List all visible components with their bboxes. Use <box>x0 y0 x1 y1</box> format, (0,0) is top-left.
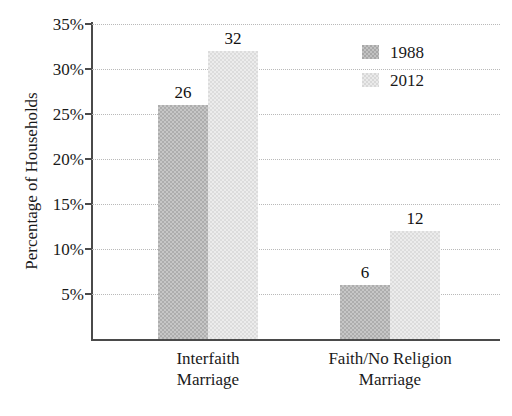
plot-area: 26 32 6 12 <box>92 24 500 339</box>
chart-legend: 1988 2012 <box>362 38 424 94</box>
bar-1988-faith-no-religion[interactable] <box>340 285 390 339</box>
x-category-label-interfaith: Interfaith Marriage <box>132 348 284 390</box>
y-tick-label: 10% <box>32 241 84 258</box>
legend-swatch-1988-icon <box>362 45 379 59</box>
y-axis-tick-labels: 35% 30% 25% 20% 15% 10% 5% <box>22 0 84 416</box>
x-axis-line <box>91 339 500 341</box>
y-tick-label: 5% <box>32 286 84 303</box>
legend-label-2012: 2012 <box>390 72 424 89</box>
bar-value-label: 12 <box>390 210 440 227</box>
y-tick-label: 25% <box>32 106 84 123</box>
bar-value-label: 6 <box>340 264 390 281</box>
gridline <box>92 204 500 205</box>
gridline <box>92 114 500 115</box>
legend-item-1988[interactable]: 1988 <box>362 38 424 66</box>
gridline <box>92 69 500 70</box>
bar-2012-interfaith[interactable] <box>208 51 258 339</box>
x-category-line: Interfaith <box>132 348 284 369</box>
y-tick-label: 20% <box>32 151 84 168</box>
gridline <box>92 24 500 25</box>
bar-1988-interfaith[interactable] <box>158 105 208 339</box>
cropped-chart-title <box>150 0 310 2</box>
bar-2012-faith-no-religion[interactable] <box>390 231 440 339</box>
y-tick-label: 15% <box>32 196 84 213</box>
y-tick-label: 35% <box>32 16 84 33</box>
legend-swatch-2012-icon <box>362 73 379 87</box>
y-tick-label: 30% <box>32 61 84 78</box>
x-category-line: Marriage <box>132 369 284 390</box>
legend-item-2012[interactable]: 2012 <box>362 66 424 94</box>
x-category-label-faith-no-religion: Faith/No Religion Marriage <box>300 348 480 390</box>
x-category-line: Marriage <box>300 369 480 390</box>
x-category-line: Faith/No Religion <box>300 348 480 369</box>
gridline <box>92 159 500 160</box>
bar-value-label: 32 <box>208 30 258 47</box>
legend-label-1988: 1988 <box>390 44 424 61</box>
bar-value-label: 26 <box>158 84 208 101</box>
